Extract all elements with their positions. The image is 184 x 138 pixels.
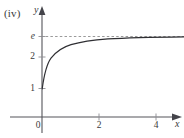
- y-axis-arrow: [39, 6, 46, 15]
- plot-area: [0, 0, 184, 138]
- x-tick-label-2: 2: [92, 120, 106, 130]
- curve-path: [42, 37, 184, 89]
- x-axis-label: x: [175, 118, 179, 129]
- y-tick-label-1: 1: [21, 83, 35, 93]
- y-tick-label-2: 2: [21, 51, 35, 61]
- figure-container: (iv) y x e 2 1 0 2 4: [0, 0, 184, 138]
- y-axis-label: y: [34, 4, 38, 15]
- y-tick-label-e: e: [21, 31, 35, 41]
- x-tick-label-0: 0: [31, 120, 45, 130]
- x-tick-label-4: 4: [149, 120, 163, 130]
